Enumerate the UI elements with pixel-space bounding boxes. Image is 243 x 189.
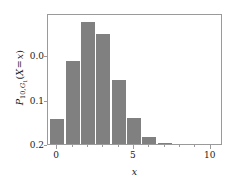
x-tick-minor	[164, 145, 165, 147]
y-tick-mark-2	[44, 145, 48, 146]
bar	[66, 61, 80, 144]
x-tick-mark-0	[56, 145, 57, 149]
plot-area	[47, 14, 222, 145]
x-tick-label-1: 5	[121, 151, 145, 160]
bar	[81, 22, 95, 144]
bar	[96, 34, 110, 144]
x-tick-minor	[72, 145, 73, 147]
y-tick-label-0: 0.0	[30, 52, 44, 61]
x-tick-label-0: 0	[44, 151, 68, 160]
x-tick-mark-1	[133, 145, 134, 149]
x-tick-mark-2	[210, 145, 211, 149]
bar	[50, 119, 64, 144]
y-tick-label-1: 0.1	[30, 97, 44, 106]
bar	[142, 137, 156, 144]
x-tick-label-2: 10	[198, 151, 222, 160]
y-axis-label-subscript: 10, G1	[19, 80, 27, 99]
y-axis-label-symbol: P	[14, 99, 25, 105]
x-tick-minor	[179, 145, 180, 147]
figure: P10, G1(X = x) 0.0 0.1 0.2 0510 x	[0, 0, 243, 189]
bar	[112, 80, 126, 144]
bar	[158, 143, 172, 144]
bar	[127, 118, 141, 144]
bars-container	[48, 15, 221, 144]
x-tick-minor	[102, 145, 103, 147]
y-axis-label: P10, G1(X = x)	[15, 13, 25, 143]
x-tick-minor	[148, 145, 149, 147]
x-tick-minor	[87, 145, 88, 147]
x-tick-minor	[194, 145, 195, 147]
x-tick-minor	[118, 145, 119, 147]
y-axis-label-argument: (X = x)	[14, 50, 25, 79]
x-axis-label: x	[47, 167, 222, 177]
y-tick-label-2: 0.2	[30, 141, 44, 150]
